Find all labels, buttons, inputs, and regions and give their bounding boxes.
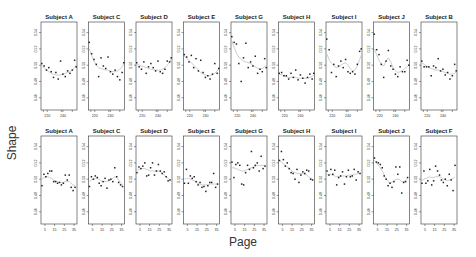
data-point <box>245 172 247 174</box>
data-point <box>112 73 114 75</box>
data-point <box>435 67 437 69</box>
data-point <box>97 177 99 179</box>
data-point <box>117 76 119 78</box>
y-tick-label: 0.50 <box>34 62 38 69</box>
x-tick-label: 240 <box>440 114 446 118</box>
data-point <box>249 169 251 171</box>
y-tick-label: 0.52 <box>82 45 86 52</box>
smooth-line <box>232 165 265 171</box>
data-point <box>95 175 97 177</box>
y-tick-label: 0.48 <box>414 192 418 199</box>
data-point <box>383 77 385 79</box>
y-tick-label: 0.54 <box>129 29 133 36</box>
data-point <box>163 171 165 173</box>
data-point <box>136 172 138 174</box>
data-point <box>119 79 121 81</box>
panel: Subject G0.540.520.500.480.465152535 <box>224 128 267 232</box>
data-point <box>143 61 145 63</box>
data-point <box>287 162 289 164</box>
y-tick-label: 0.52 <box>272 45 276 52</box>
y-tick-label: 0.52 <box>177 45 181 52</box>
data-point <box>354 73 356 75</box>
y-tick-label: 0.48 <box>129 78 133 85</box>
panel-title: Subject A <box>45 128 73 134</box>
data-point <box>376 161 378 163</box>
y-tick-label: 0.54 <box>367 29 371 36</box>
y-tick-label: 0.54 <box>224 29 228 36</box>
data-point <box>100 57 102 59</box>
data-point <box>245 42 247 44</box>
x-tick-label: 5 <box>234 228 236 232</box>
y-tick-label: 0.46 <box>272 94 276 101</box>
data-point <box>281 151 283 153</box>
data-point <box>359 51 361 53</box>
panel-frame <box>374 22 410 110</box>
data-point <box>452 190 454 192</box>
y-tick-label: 0.52 <box>319 45 323 52</box>
data-point <box>240 81 242 83</box>
x-tick-label: 15 <box>53 228 57 232</box>
data-point <box>247 165 249 167</box>
data-point <box>389 183 391 185</box>
data-point <box>447 185 449 187</box>
data-point <box>423 66 425 68</box>
data-point <box>374 33 376 35</box>
panel-title: Subject I <box>331 14 356 20</box>
y-tick-label: 0.50 <box>224 176 228 183</box>
y-tick-label: 0.52 <box>34 159 38 166</box>
data-point <box>146 175 148 177</box>
data-point <box>120 184 122 186</box>
panel: Subject C0.540.520.500.480.46220240 <box>82 14 125 118</box>
data-point <box>425 183 427 185</box>
panel-frame <box>279 22 315 110</box>
smooth-line <box>137 169 170 180</box>
panel-title: Subject D <box>140 14 168 20</box>
x-tick-label: 15 <box>195 228 199 232</box>
panel-title: Subject I <box>331 128 356 134</box>
data-point <box>69 73 71 75</box>
x-tick-label: 240 <box>250 114 256 118</box>
data-point <box>348 169 350 171</box>
data-point <box>138 66 140 68</box>
x-tick-label: 25 <box>300 228 304 232</box>
data-point <box>395 166 397 168</box>
x-tick-label: 240 <box>202 114 208 118</box>
y-tick-label: 0.54 <box>177 29 181 36</box>
data-point <box>160 71 162 73</box>
x-tick-label: 240 <box>60 114 66 118</box>
smooth-line <box>89 177 122 185</box>
x-tick-label: 35 <box>310 228 314 232</box>
data-point <box>48 67 50 69</box>
data-point <box>141 69 143 71</box>
smooth-line <box>374 160 407 183</box>
panel-title: Subject J <box>378 128 405 134</box>
x-tick-label: 220 <box>139 114 145 118</box>
x-tick-label: 25 <box>395 228 399 232</box>
data-point <box>304 82 306 84</box>
data-point <box>191 55 193 57</box>
panel-frame <box>41 136 77 224</box>
y-tick-label: 0.52 <box>414 159 418 166</box>
x-tick-label: 15 <box>148 228 152 232</box>
data-point <box>285 165 287 167</box>
data-point <box>43 65 45 67</box>
data-point <box>346 176 348 178</box>
data-point <box>385 178 387 180</box>
data-point <box>428 66 430 68</box>
data-point <box>140 168 142 170</box>
data-point <box>408 64 410 66</box>
y-tick-label: 0.50 <box>34 176 38 183</box>
y-tick-label: 0.48 <box>272 78 276 85</box>
panel-title: Subject G <box>235 14 263 20</box>
x-axis-label: Page <box>229 235 257 249</box>
data-point <box>91 53 93 55</box>
y-tick-label: 0.50 <box>177 176 181 183</box>
data-point <box>441 179 443 181</box>
data-point <box>199 182 201 184</box>
smooth-line <box>327 54 361 71</box>
x-tick-label: 35 <box>215 228 219 232</box>
y-tick-label: 0.50 <box>414 176 418 183</box>
data-point <box>213 173 215 175</box>
y-tick-label: 0.48 <box>319 192 323 199</box>
panel-frame <box>279 136 315 224</box>
